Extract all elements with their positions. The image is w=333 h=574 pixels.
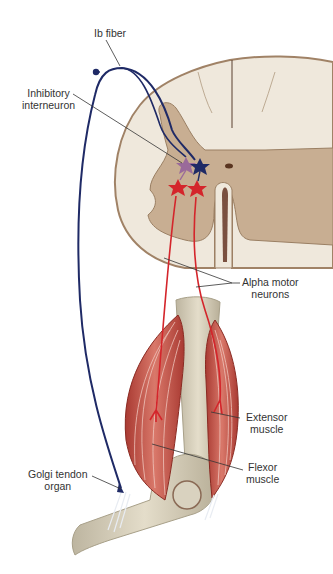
label-ib-fiber: Ib fiber [94, 27, 126, 39]
label-text: muscle [246, 423, 287, 435]
label-extensor-muscle: Extensor muscle [246, 411, 287, 435]
label-text: organ [28, 480, 88, 492]
leader-ib-fiber [106, 40, 120, 66]
label-inhibitory-interneuron: Inhibitory interneuron [22, 87, 75, 111]
label-text: interneuron [22, 99, 75, 111]
label-text: Ib fiber [94, 27, 126, 39]
label-text: Inhibitory [22, 87, 75, 99]
label-text: Alpha motor [242, 276, 299, 288]
central-canal [225, 164, 233, 169]
reflex-diagram: Ib fiber Inhibitory interneuron Alpha mo… [0, 0, 333, 574]
label-text: muscle [246, 473, 279, 485]
label-text: Golgi tendon [28, 468, 88, 480]
label-text: Flexor [246, 461, 279, 473]
label-text: Extensor [246, 411, 287, 423]
label-alpha-motor-neurons: Alpha motor neurons [242, 276, 299, 300]
label-text: neurons [242, 288, 299, 300]
ventral-median-fissure [222, 188, 228, 263]
spinal-cord [115, 56, 333, 268]
label-golgi-tendon-organ: Golgi tendon organ [28, 468, 88, 492]
label-flexor-muscle: Flexor muscle [246, 461, 279, 485]
elbow-joint [173, 481, 201, 509]
